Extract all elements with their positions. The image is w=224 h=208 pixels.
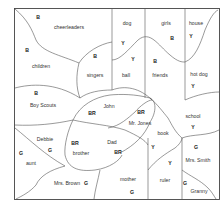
region-label-granny: Granny xyxy=(190,188,207,194)
code-aunt: G xyxy=(19,150,23,156)
region-label-ruler: ruler xyxy=(160,177,171,183)
code-girls: B xyxy=(170,35,174,41)
code-ruler: Y xyxy=(168,160,172,166)
region-labels: cheerleaders children singers dog ball g… xyxy=(26,20,211,194)
code-school: Y xyxy=(191,124,195,130)
code-john: BR xyxy=(88,110,96,116)
region-label-mrs-brown: Mrs. Brown xyxy=(54,180,80,186)
region-label-children: children xyxy=(32,63,50,69)
region-map-diagram: cheerleaders children singers dog ball g… xyxy=(0,0,224,208)
region-label-cheerleaders: cheerleaders xyxy=(54,24,84,30)
code-boy-scouts: B xyxy=(34,90,38,96)
code-children: B xyxy=(25,47,29,53)
code-dad: BR xyxy=(114,149,122,155)
region-label-mother: mother xyxy=(120,176,136,182)
code-granny: G xyxy=(183,180,187,186)
region-label-singers: singers xyxy=(87,72,104,78)
region-label-hot-dog: hot dog xyxy=(190,71,207,77)
region-label-boy-scouts: Boy Scouts xyxy=(30,102,57,108)
code-mother: G xyxy=(130,189,134,195)
region-label-house: house xyxy=(189,20,203,26)
region-label-brother: brother xyxy=(73,150,90,156)
code-mrs-brown: G xyxy=(84,180,88,186)
region-label-ball: ball xyxy=(122,72,130,78)
code-house: Y xyxy=(189,33,193,39)
code-friends: B xyxy=(153,58,157,64)
code-brother: BR xyxy=(71,140,79,146)
code-cheerleaders: B xyxy=(36,14,40,20)
code-dog: Y xyxy=(121,40,125,46)
region-label-dad: Dad xyxy=(107,139,117,145)
code-ball: Y xyxy=(131,56,135,62)
code-mr-jones: BR xyxy=(137,109,145,115)
region-label-john: John xyxy=(103,103,114,109)
region-label-debbie: Debbie xyxy=(37,136,54,142)
code-debbie: G xyxy=(48,147,52,153)
region-label-mrs-smith: Mrs. Smith xyxy=(186,157,211,163)
region-label-aunt: aunt xyxy=(26,160,37,166)
region-label-girls: girls xyxy=(161,20,171,26)
region-label-book: book xyxy=(157,130,169,136)
region-label-friends: friends xyxy=(152,72,168,78)
code-hot-dog: Y xyxy=(191,83,195,89)
region-label-mr-jones: Mr. Jones xyxy=(129,120,152,126)
region-label-dog: dog xyxy=(123,20,132,26)
region-label-school: school xyxy=(186,113,201,119)
code-book: Y xyxy=(151,144,155,150)
code-mrs-smith: G xyxy=(194,144,198,150)
code-singers: B xyxy=(93,53,97,59)
